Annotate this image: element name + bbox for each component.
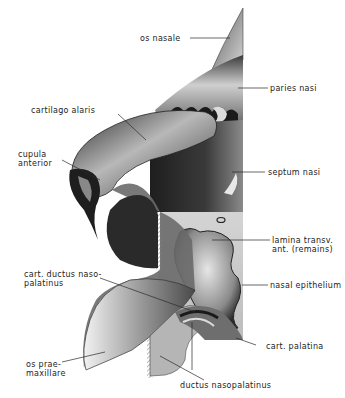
label-paries-nasi: paries nasi [270, 84, 317, 93]
anatomy-figure: os nasale paries nasi cartilago alaris c… [0, 0, 345, 398]
label-cartilago-alaris: cartilago alaris [31, 106, 95, 115]
label-os-nasale: os nasale [140, 34, 181, 43]
label-cart-ductus: cart. ductus naso- palatinus [24, 270, 102, 288]
label-septum-nasi: septum nasi [268, 168, 320, 177]
label-os-praemaxillare: os prae- maxillare [26, 360, 66, 378]
label-cart-palatina: cart. palatina [266, 342, 323, 351]
label-ductus-nasopalatinus: ductus nasopalatinus [180, 381, 271, 390]
nasal-anatomy-illustration [0, 0, 345, 398]
label-nasal-epithelium: nasal epithelium [270, 281, 341, 290]
label-lamina-transv: lamina transv. ant. (remains) [272, 236, 333, 254]
label-cupula-anterior: cupula anterior [18, 150, 52, 168]
